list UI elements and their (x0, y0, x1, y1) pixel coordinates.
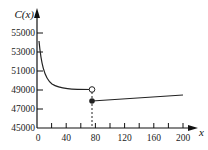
x-axis-arrow-icon (188, 125, 198, 131)
x-tick-label: 0 (36, 133, 41, 143)
y-tick-label: 55000 (11, 28, 35, 38)
x-tick-label: 80 (91, 133, 101, 143)
x-axis-title: x (198, 126, 204, 138)
y-axis-title: C(x) (14, 8, 34, 21)
cost-function-chart: 55000 53000 51000 49000 47000 45000 0 40… (0, 0, 208, 150)
y-tick-label: 51000 (11, 66, 35, 76)
x-tick-label: 160 (147, 133, 162, 143)
filled-dot-marker (89, 98, 95, 104)
y-axis-arrow-icon (34, 8, 40, 18)
x-tick-label: 200 (176, 133, 191, 143)
curve-segment-1 (39, 41, 92, 90)
x-ticks (52, 123, 183, 128)
x-tick-label: 40 (61, 133, 71, 143)
y-ticks (37, 33, 43, 109)
curve-segment-2 (92, 95, 183, 101)
y-tick-label: 49000 (11, 85, 35, 95)
y-tick-label: 53000 (11, 47, 35, 57)
y-tick-label: 47000 (11, 104, 35, 114)
x-tick-label: 120 (117, 133, 132, 143)
y-tick-label: 45000 (11, 123, 35, 133)
open-circle-marker (89, 87, 95, 93)
